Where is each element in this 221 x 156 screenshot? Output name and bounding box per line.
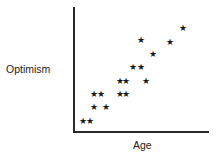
x-axis-label: Age bbox=[133, 139, 152, 151]
star-marker-icon: ★ bbox=[86, 117, 94, 125]
star-marker-icon: ★ bbox=[137, 36, 145, 44]
star-marker-icon: ★ bbox=[97, 90, 105, 98]
x-axis bbox=[73, 131, 209, 133]
star-marker-icon: ★ bbox=[137, 63, 145, 71]
scatter-chart: Optimism Age ★★★★★★★★★★★★★★★★★ bbox=[0, 0, 221, 156]
star-marker-icon: ★ bbox=[102, 103, 110, 111]
y-axis bbox=[73, 7, 75, 132]
y-axis-label: Optimism bbox=[6, 63, 50, 75]
star-marker-icon: ★ bbox=[166, 38, 174, 46]
star-marker-icon: ★ bbox=[122, 77, 130, 85]
star-marker-icon: ★ bbox=[149, 50, 157, 58]
star-marker-icon: ★ bbox=[90, 103, 98, 111]
star-marker-icon: ★ bbox=[129, 63, 137, 71]
star-marker-icon: ★ bbox=[122, 90, 130, 98]
star-marker-icon: ★ bbox=[179, 24, 187, 32]
star-marker-icon: ★ bbox=[142, 77, 150, 85]
